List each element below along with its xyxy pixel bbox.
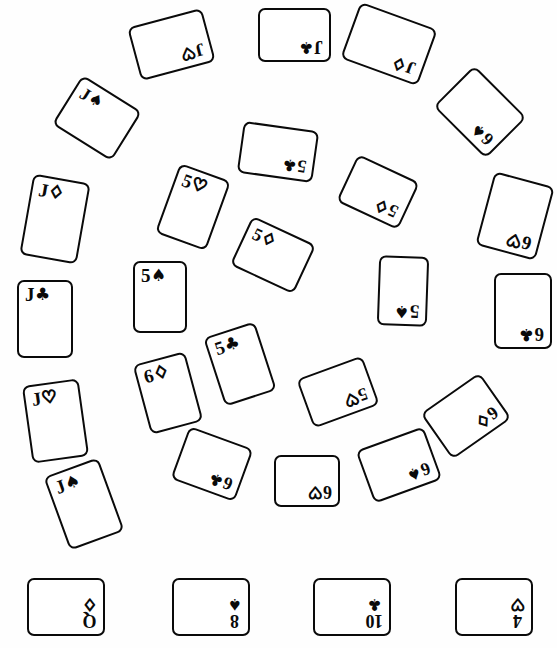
playing-card[interactable]: 5♡ — [155, 163, 231, 251]
card-suit-heart-icon: ♡ — [308, 485, 322, 501]
card-corner-index: J♠ — [77, 84, 107, 112]
card-corner-index: 6♡ — [504, 229, 533, 254]
card-suit-diamond-icon: ♢ — [47, 182, 65, 201]
card-corner-index: J♡ — [179, 40, 207, 64]
playing-card[interactable]: 6♢ — [133, 351, 204, 435]
playing-card[interactable]: 10♣ — [313, 578, 391, 636]
card-corner-index: J♠ — [53, 471, 83, 497]
playing-card[interactable]: Q♢ — [27, 578, 105, 636]
playing-card[interactable]: 5♢ — [336, 154, 420, 230]
playing-card[interactable]: J♡ — [127, 8, 216, 81]
card-suit-club-icon: ♣ — [35, 286, 50, 303]
playing-card[interactable]: J♣ — [258, 8, 331, 62]
playing-card[interactable]: 5♣ — [203, 321, 277, 406]
playing-card[interactable]: 6♢ — [420, 372, 511, 459]
card-corner-index: 6♢ — [142, 361, 171, 386]
playing-card[interactable]: J♠ — [52, 75, 142, 161]
card-rank: 5 — [297, 157, 308, 176]
playing-card[interactable]: J♠ — [43, 457, 124, 550]
card-corner-index: 5♠ — [141, 266, 166, 285]
playing-card[interactable]: 8♠ — [172, 578, 250, 636]
card-rank: 5 — [410, 302, 420, 321]
playing-card[interactable]: 5♠ — [133, 261, 187, 333]
card-suit-club-icon: ♣ — [281, 156, 297, 174]
playing-card[interactable]: 5♢ — [230, 216, 316, 295]
card-rank: 4 — [514, 612, 523, 630]
playing-card[interactable]: 5♡ — [296, 356, 380, 429]
card-corner-index: 6♣ — [519, 325, 544, 344]
playing-card[interactable]: 6♣ — [170, 426, 253, 502]
card-corner-index: 5♢ — [250, 225, 279, 251]
playing-card[interactable]: 5♣ — [237, 121, 319, 183]
playing-card[interactable]: J♢ — [340, 2, 438, 86]
playing-card[interactable]: 6♠ — [356, 426, 443, 503]
card-corner-index: J♣ — [25, 285, 50, 304]
card-corner-index: 5♣ — [281, 155, 307, 176]
card-corner-index: 10♣ — [366, 596, 383, 630]
card-suit-heart-icon: ♡ — [40, 387, 57, 406]
card-corner-index: J♢ — [389, 53, 418, 78]
card-rank: J — [25, 285, 34, 304]
card-rank: J — [315, 38, 324, 56]
playing-card[interactable]: 4♡ — [455, 578, 533, 636]
card-corner-index: 5♢ — [372, 195, 401, 221]
card-rank: 6 — [535, 325, 544, 344]
card-corner-index: J♣ — [299, 38, 323, 56]
card-corner-index: 6♣ — [207, 468, 236, 493]
card-suit-spade-icon: ♠ — [228, 597, 242, 613]
card-suit-diamond-icon: ♢ — [83, 597, 97, 613]
playing-card[interactable]: 6♡ — [475, 171, 555, 260]
playing-card[interactable]: 6♡ — [274, 455, 340, 507]
card-corner-index: Q♢ — [83, 596, 97, 630]
card-corner-index: J♡ — [30, 387, 58, 409]
card-suit-diamond-icon: ♢ — [151, 362, 170, 382]
card-rank: 6 — [324, 483, 333, 501]
card-suit-spade-icon: ♠ — [394, 303, 410, 321]
card-rank: 5 — [141, 266, 150, 285]
card-rank: 8 — [231, 612, 240, 630]
card-corner-index: 5♠ — [394, 302, 420, 322]
playing-card[interactable]: 5♠ — [377, 255, 429, 327]
card-suit-spade-icon: ♠ — [151, 267, 166, 284]
card-suit-club-icon: ♣ — [299, 40, 313, 56]
playing-card[interactable]: J♣ — [17, 280, 73, 358]
playing-card[interactable]: 6♣ — [494, 273, 552, 349]
card-rank: Q — [83, 612, 97, 630]
card-corner-index: 4♡ — [511, 596, 525, 630]
playing-card[interactable]: J♡ — [22, 378, 89, 463]
card-corner-index: 6♠ — [404, 459, 433, 484]
card-corner-index: J♢ — [37, 180, 65, 203]
playing-card[interactable]: 6♠ — [433, 65, 526, 158]
card-corner-index: 8♠ — [228, 596, 242, 630]
card-corner-index: 6♠ — [467, 119, 497, 149]
playing-card[interactable]: J♢ — [19, 174, 90, 265]
card-scene: J♡J♣J♢6♠6♡6♣6♢6♠6♡6♣J♠J♡J♣J♢J♠5♣5♢5♠5♡5♣… — [0, 0, 557, 648]
card-suit-club-icon: ♣ — [519, 327, 534, 344]
card-corner-index: 5♣ — [212, 333, 242, 359]
card-suit-club-icon: ♣ — [367, 597, 381, 613]
card-corner-index: 5♡ — [180, 170, 210, 196]
card-suit-heart-icon: ♡ — [511, 597, 525, 613]
card-rank: 10 — [366, 612, 383, 630]
card-corner-index: 6♢ — [472, 403, 502, 431]
card-corner-index: 6♡ — [308, 483, 332, 501]
card-corner-index: 5♡ — [342, 385, 371, 410]
